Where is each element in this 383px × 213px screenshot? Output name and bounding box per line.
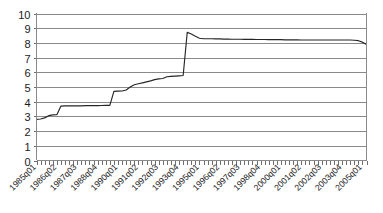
y-tick-label: 4 (24, 97, 30, 109)
y-tick-label: 3 (24, 111, 30, 123)
y-tick-label: 5 (24, 82, 30, 94)
y-tick-label: 2 (24, 126, 30, 138)
y-tick-label: 7 (24, 53, 30, 65)
chart-canvas: 109876543210 1985q011986q021987q031988q0… (0, 0, 383, 213)
y-tick-label: 10 (18, 9, 30, 21)
y-tick-label: 8 (24, 38, 30, 50)
y-tick-label: 1 (24, 141, 30, 153)
line-chart: 109876543210 1985q011986q021987q031988q0… (0, 0, 383, 213)
y-tick-label: 6 (24, 67, 30, 79)
y-tick-label: 9 (24, 23, 30, 35)
